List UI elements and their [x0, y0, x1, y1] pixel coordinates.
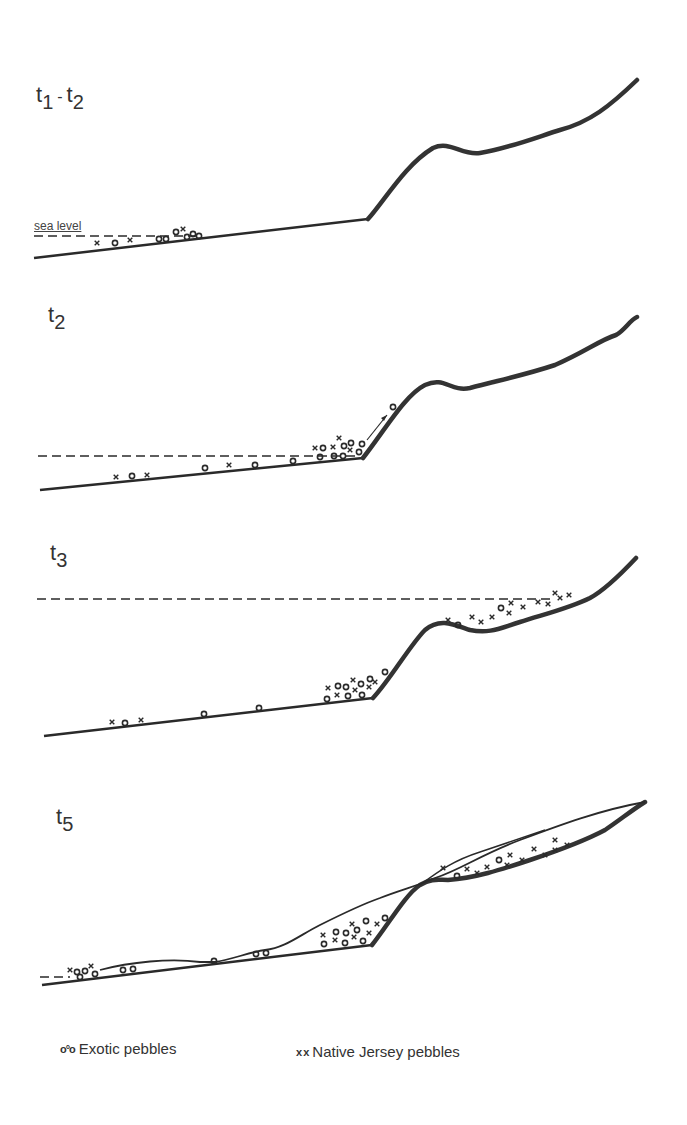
legend-native-pebbles: x x Native Jersey pebbles [296, 1043, 460, 1060]
exotic-pebble-icon: o°o [60, 1043, 75, 1055]
legend-label: Exotic pebbles [79, 1040, 177, 1057]
pebbles [114, 436, 365, 480]
pebbles-upper [446, 591, 572, 628]
legend-label: Native Jersey pebbles [312, 1043, 460, 1060]
panel-t5 [40, 802, 645, 985]
shore-platform [44, 698, 373, 736]
cliff-profile [368, 80, 637, 219]
cliff-profile [373, 558, 636, 698]
legend-exotic-pebbles: o°o Exotic pebbles [60, 1040, 176, 1057]
native-pebble-icon: x x [296, 1046, 308, 1058]
cliff-profile [363, 317, 637, 458]
coastal-profile-diagram [0, 0, 687, 1125]
pebbles-lower [68, 915, 388, 979]
panel-t2 [38, 317, 637, 490]
panel-t3 [37, 558, 636, 736]
pebbles-lower [110, 669, 388, 725]
panel-t1-t2 [34, 80, 637, 258]
shore-platform [40, 458, 363, 490]
cliff-profile [372, 802, 645, 945]
